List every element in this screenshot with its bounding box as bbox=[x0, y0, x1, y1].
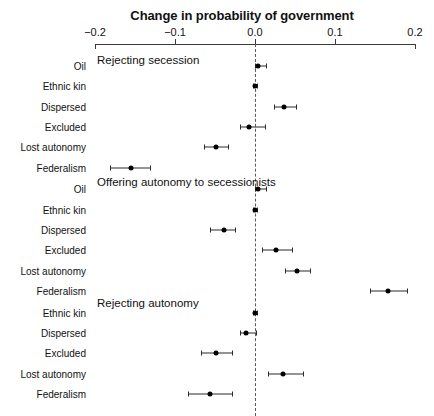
confidence-interval-cap bbox=[268, 371, 269, 376]
row-label: Oil bbox=[0, 61, 86, 72]
confidence-interval-cap bbox=[303, 371, 304, 376]
confidence-interval-cap bbox=[266, 187, 267, 192]
confidence-interval-cap bbox=[228, 145, 229, 150]
confidence-interval-cap bbox=[240, 330, 241, 335]
estimate-point bbox=[256, 187, 261, 192]
row-label: Excluded bbox=[0, 121, 86, 132]
row-label: Ethnic kin bbox=[0, 204, 86, 215]
confidence-interval-cap bbox=[257, 310, 258, 315]
estimate-point bbox=[253, 310, 258, 315]
confidence-interval-cap bbox=[407, 288, 408, 293]
estimate-point bbox=[385, 288, 390, 293]
estimate-point bbox=[294, 268, 299, 273]
confidence-interval-cap bbox=[256, 330, 257, 335]
row-label: Excluded bbox=[0, 245, 86, 256]
confidence-interval-cap bbox=[370, 288, 371, 293]
confidence-interval-cap bbox=[232, 391, 233, 396]
estimate-point bbox=[129, 165, 134, 170]
estimate-point bbox=[213, 145, 218, 150]
forest-plot-chart: Change in probability of government −0.2… bbox=[0, 0, 434, 416]
confidence-interval-cap bbox=[265, 124, 266, 129]
row-label: Lost autonomy bbox=[0, 368, 86, 379]
confidence-interval-cap bbox=[274, 104, 275, 109]
row-label: Dispersed bbox=[0, 327, 86, 338]
estimate-point bbox=[253, 84, 258, 89]
confidence-interval-cap bbox=[292, 248, 293, 253]
row-label: Federalism bbox=[0, 285, 86, 296]
confidence-interval-cap bbox=[110, 165, 111, 170]
estimate-point bbox=[253, 207, 258, 212]
estimate-point bbox=[213, 351, 218, 356]
confidence-interval-cap bbox=[232, 351, 233, 356]
estimate-point bbox=[244, 330, 249, 335]
row-label: Dispersed bbox=[0, 101, 86, 112]
confidence-interval-cap bbox=[310, 268, 311, 273]
confidence-interval-cap bbox=[204, 145, 205, 150]
confidence-interval-cap bbox=[210, 227, 211, 232]
row-label: Ethnic kin bbox=[0, 81, 86, 92]
estimate-point bbox=[281, 104, 286, 109]
row-label: Excluded bbox=[0, 348, 86, 359]
confidence-interval-cap bbox=[296, 104, 297, 109]
row-label: Federalism bbox=[0, 162, 86, 173]
row-label: Ethnic kin bbox=[0, 307, 86, 318]
confidence-interval-cap bbox=[150, 165, 151, 170]
row-label: Oil bbox=[0, 184, 86, 195]
confidence-interval-cap bbox=[235, 227, 236, 232]
estimate-point bbox=[246, 124, 251, 129]
confidence-interval-cap bbox=[201, 351, 202, 356]
confidence-interval-cap bbox=[266, 64, 267, 69]
estimate-point bbox=[208, 391, 213, 396]
confidence-interval-cap bbox=[188, 391, 189, 396]
confidence-interval-cap bbox=[240, 124, 241, 129]
data-rows: OilEthnic kinDispersedExcludedLost auton… bbox=[0, 0, 434, 416]
confidence-interval-cap bbox=[262, 248, 263, 253]
row-label: Lost autonomy bbox=[0, 265, 86, 276]
row-label: Federalism bbox=[0, 388, 86, 399]
row-label: Lost autonomy bbox=[0, 142, 86, 153]
estimate-point bbox=[221, 227, 226, 232]
estimate-point bbox=[273, 248, 278, 253]
confidence-interval-cap bbox=[285, 268, 286, 273]
confidence-interval-cap bbox=[257, 207, 258, 212]
row-label: Dispersed bbox=[0, 224, 86, 235]
confidence-interval-line bbox=[240, 126, 266, 127]
estimate-point bbox=[256, 64, 261, 69]
estimate-point bbox=[281, 371, 286, 376]
